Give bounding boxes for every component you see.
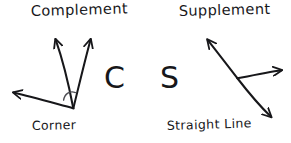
complement-ray-right-arrow [73, 39, 90, 108]
supplement-angle-group [208, 40, 282, 117]
mnemonic-letter-c: C [104, 60, 125, 95]
supplement-heading-label: Supplement [179, 1, 271, 19]
supplement-ray-lower-right-arrow [237, 78, 271, 117]
supplement-ray-horizontal-arrow [238, 70, 282, 78]
straight-line-label: Straight Line [167, 115, 253, 133]
supplement-ray-upper-left-arrow [208, 40, 238, 78]
complement-angle-group [14, 39, 91, 108]
diagram-canvas: Complement Corner Supplement Straight Li… [0, 0, 291, 143]
mnemonic-letter-s: S [160, 60, 179, 95]
complement-heading-label: Complement [31, 0, 129, 19]
corner-vertex-label: Corner [32, 117, 77, 133]
corner-baseline-ray-arrow [14, 93, 74, 109]
